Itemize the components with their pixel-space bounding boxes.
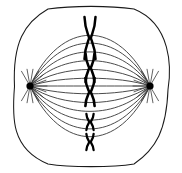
cell-division-figure [0, 0, 182, 173]
mitosis-metaphase-diagram [0, 0, 182, 173]
right-centrosome [146, 82, 153, 89]
left-centrosome [26, 82, 33, 89]
